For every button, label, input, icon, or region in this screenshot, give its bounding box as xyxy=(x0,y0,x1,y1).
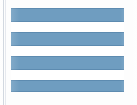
stripe-blue-3 xyxy=(11,32,124,46)
image-canvas xyxy=(0,0,137,105)
stripe-blue-7 xyxy=(11,80,124,92)
stripe-blue-5 xyxy=(11,56,124,70)
striped-swatch xyxy=(11,8,124,92)
left-margin-rule-secondary xyxy=(5,0,6,105)
stripe-white-6 xyxy=(11,70,124,80)
left-margin-rule xyxy=(3,0,4,105)
stripe-white-2 xyxy=(11,22,124,32)
stripe-white-4 xyxy=(11,46,124,56)
stripe-blue-1 xyxy=(11,8,124,22)
